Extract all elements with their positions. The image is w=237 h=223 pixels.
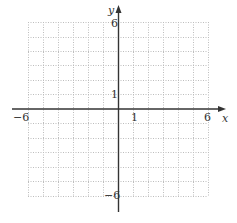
y-axis-label: y (107, 4, 115, 17)
x-tick-max: 6 (204, 111, 211, 124)
y-tick-max: 6 (111, 17, 118, 30)
x-tick-min: −6 (13, 111, 29, 124)
y-tick-min: −6 (104, 189, 120, 202)
y-tick-one: 1 (111, 88, 118, 101)
y-axis-arrow-icon (116, 5, 122, 13)
x-axis-label: x (222, 112, 229, 125)
coordinate-plane: y x 6 1 −6 −6 1 6 (0, 0, 237, 223)
x-tick-one: 1 (131, 111, 138, 124)
